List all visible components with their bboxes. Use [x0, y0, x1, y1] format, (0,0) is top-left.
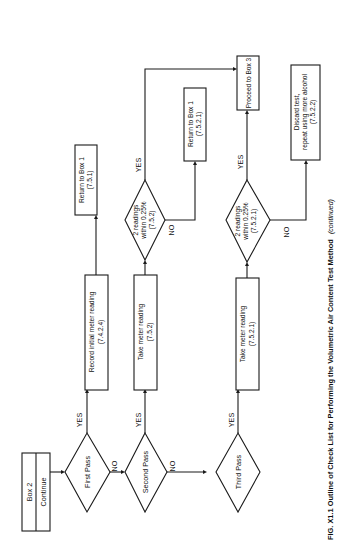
record-initial-line2: (7.4.2.4)	[97, 320, 105, 345]
record-initial-line1: Record initial meter reading	[88, 291, 96, 372]
edge-label-yes-third-pass: YES	[227, 413, 236, 428]
box-2-continue: Box 2 Continue	[22, 453, 50, 531]
return-box1-a-line1: Return to Box 1	[78, 157, 85, 203]
third-pass-label: Third Pass	[234, 454, 243, 489]
decision-readings-7-5-2: 2 readings within 0.25% (7.5.2)	[125, 180, 165, 260]
take-meter-b-line2: (7.5.2.1)	[248, 322, 256, 347]
edge-label-yes-first-pass: YES	[75, 413, 84, 428]
box-2-title: Box 2	[25, 483, 34, 501]
caption-suffix: (continued)	[327, 199, 335, 234]
discard-line3: (7.5.2.2)	[309, 100, 317, 125]
readings-a-line3: (7.5.2)	[148, 210, 156, 229]
first-pass-label: First Pass	[83, 456, 92, 488]
process-return-box1-7-5-1: Return to Box 1 (7.5.1)	[75, 145, 97, 215]
decision-first-pass: First Pass	[65, 433, 110, 512]
process-take-meter-7-5-2-1: Take meter reading (7.5.2.1)	[236, 278, 259, 390]
readings-a-line2: within 0.25%	[140, 201, 147, 240]
caption-main: FIG. X1.1 Outline of Check List for Perf…	[326, 239, 335, 540]
process-proceed-box3: Proceed to Box 3	[237, 56, 259, 110]
edge-label-no-readings-a: NO	[167, 224, 176, 235]
readings-a-line1: 2 readings	[132, 204, 140, 235]
proceed-box3-label: Proceed to Box 3	[245, 57, 252, 108]
decision-readings-7-5-2-1: 2 readings within 0.25% (7.5.2.1)	[226, 180, 270, 262]
edge-label-no-second-pass: NO	[168, 460, 177, 471]
take-meter-a-line1: Take meter reading	[137, 303, 145, 360]
process-take-meter-7-5-2: Take meter reading (7.5.2)	[134, 275, 157, 390]
edge-label-yes-readings-a: YES	[134, 158, 143, 173]
process-record-initial: Record initial meter reading (7.4.2.4)	[85, 275, 108, 390]
take-meter-a-line2: (7.5.2)	[146, 322, 154, 341]
readings-b-line1: 2 readings	[234, 205, 242, 236]
readings-b-line3: (7.5.2.1)	[250, 209, 258, 234]
take-meter-b-line1: Take meter reading	[239, 305, 247, 362]
flowchart-canvas: Box 2 Continue First Pass Second Pass Th…	[0, 0, 349, 557]
connectors	[50, 67, 308, 474]
discard-line2: repeat using more alcohol	[301, 74, 309, 150]
return-box1-a-line2: (7.5.1)	[86, 170, 94, 189]
edge-label-no-first-pass: NO	[110, 460, 119, 471]
edge-label-yes-second-pass: YES	[134, 413, 143, 428]
box-2-subtitle: Continue	[39, 478, 48, 507]
svg-text:FIG. X1.1 Outline of Check Lis: FIG. X1.1 Outline of Check List for Perf…	[326, 199, 335, 540]
discard-line1: Discard test,	[293, 94, 300, 131]
second-pass-label: Second Pass	[141, 450, 150, 493]
edge-label-yes-readings-b: YES	[236, 155, 245, 170]
figure-caption: FIG. X1.1 Outline of Check List for Perf…	[326, 199, 335, 540]
decision-second-pass: Second Pass	[125, 433, 167, 512]
edge-label-no-readings-b: NO	[282, 226, 291, 237]
process-return-box1-7-5-2-1: Return to Box 1 (7.5.2.1)	[184, 88, 206, 161]
return-box1-b-line1: Return to Box 1	[187, 101, 194, 147]
readings-b-line2: within 0.25%	[242, 202, 249, 241]
decision-third-pass: Third Pass	[216, 433, 260, 512]
process-discard-test: Discard test, repeat using more alcohol …	[291, 65, 320, 160]
return-box1-b-line2: (7.5.2.1)	[195, 112, 203, 137]
